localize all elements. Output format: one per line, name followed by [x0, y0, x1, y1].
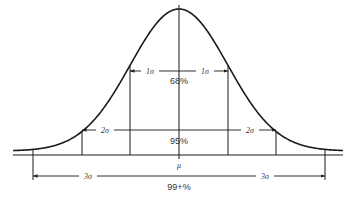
coverage-99-label: 99+%	[167, 182, 190, 192]
sigma-2-right-label: 2σ	[246, 126, 255, 135]
sigma-1-right-label: 1σ	[201, 67, 210, 76]
sigma-2-left-label: 2σ	[101, 126, 110, 135]
sigma-1-left-label: 1σ	[146, 67, 155, 76]
mean-label: μ	[176, 161, 181, 170]
sigma-3-right-label: 3σ	[260, 172, 270, 181]
coverage-68-label: 68%	[170, 76, 188, 86]
sigma-3-left-label: 3σ	[83, 172, 93, 181]
coverage-95-label: 95%	[170, 136, 188, 146]
normal-curve-diagram: 1σ 1σ 68% 2σ 2σ 95% μ 3σ 3σ 99+%	[0, 0, 349, 199]
